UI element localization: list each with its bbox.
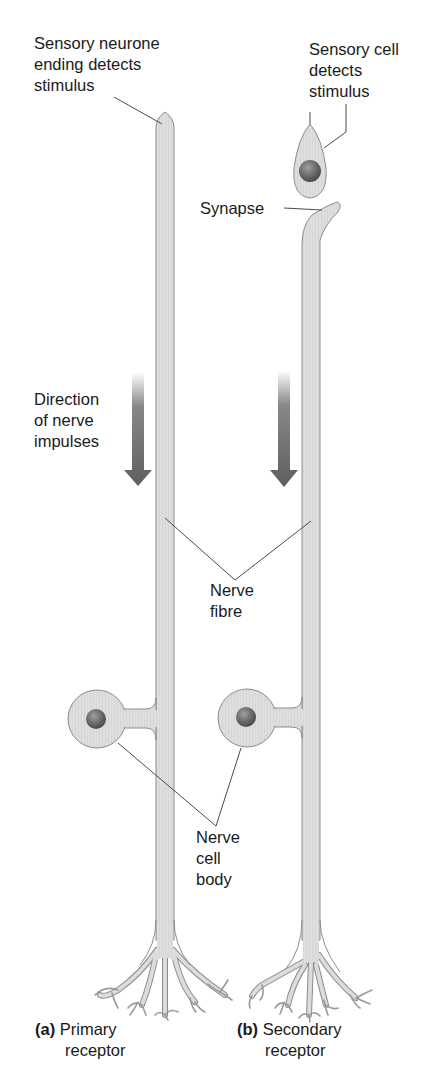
secondary-nucleus [236, 707, 256, 727]
label-synapse: Synapse [200, 198, 264, 219]
leader-nerve-fibre [165, 518, 311, 580]
caption-subtitle-a: receptor [65, 1040, 126, 1061]
caption-letter-a: (a) [35, 1020, 55, 1038]
caption-secondary-receptor: (b) Secondary [237, 1019, 342, 1040]
impulse-direction-arrow-primary [124, 372, 152, 486]
leader-synapse [284, 208, 322, 210]
label-nerve-cell-body: Nerve cell body [196, 827, 240, 890]
label-nerve-fibre: Nerve fibre [210, 580, 254, 622]
sensory-cell-nucleus [299, 160, 321, 182]
primary-nerve-fibre [156, 112, 174, 940]
leader-sensory-neurone [114, 97, 162, 124]
caption-letter-b: (b) [237, 1020, 258, 1038]
impulse-direction-arrow-secondary [270, 370, 298, 487]
secondary-receptor-neuron [218, 112, 372, 1022]
caption-subtitle-b: receptor [265, 1040, 326, 1061]
receptor-diagram [0, 0, 427, 1075]
caption-title-b: Secondary [263, 1020, 342, 1038]
caption-title-a: Primary [60, 1020, 117, 1038]
leader-sensory-cell [324, 104, 346, 148]
label-sensory-neurone: Sensory neurone ending detects stimulus [34, 33, 160, 96]
label-direction-of-impulses: Direction of nerve impulses [34, 389, 99, 452]
caption-primary-receptor: (a) Primary [35, 1019, 117, 1040]
leader-nerve-cell-body [118, 743, 241, 826]
primary-nucleus [86, 709, 106, 729]
label-sensory-cell: Sensory cell detects stimulus [309, 39, 399, 102]
secondary-nerve-fibre [302, 202, 340, 940]
